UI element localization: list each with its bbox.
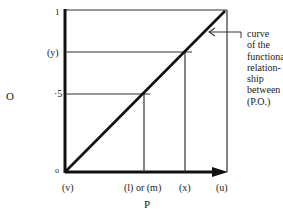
annotation-line: functional: [247, 51, 283, 62]
x-tick-l-or-m: (l) or (m): [124, 183, 161, 193]
annotation-line: ship: [247, 73, 283, 84]
y-axis-label: O: [6, 91, 14, 101]
annotation-line: curve: [247, 28, 283, 39]
annotation-line: of the: [247, 39, 283, 50]
functional-relationship-diagram: [0, 0, 283, 211]
x-tick-u: (u): [216, 183, 228, 193]
annotation-line: (P.O.): [247, 96, 283, 107]
functional-curve: [66, 11, 225, 171]
curve-annotation: curve of the functional relation- ship b…: [247, 28, 283, 107]
y-tick-1: 1: [55, 7, 60, 17]
x-tick-x: (x): [179, 183, 191, 193]
x-axis-label: P: [144, 199, 150, 209]
x-axis-arrowhead-icon: [212, 167, 228, 177]
annotation-line: relation-: [247, 62, 283, 73]
y-tick-half: ·5: [54, 89, 62, 99]
y-tick-origin: o: [55, 166, 59, 176]
y-tick-y: (y): [47, 48, 59, 58]
annotation-line: between: [247, 84, 283, 95]
x-tick-v: (v): [62, 183, 74, 193]
